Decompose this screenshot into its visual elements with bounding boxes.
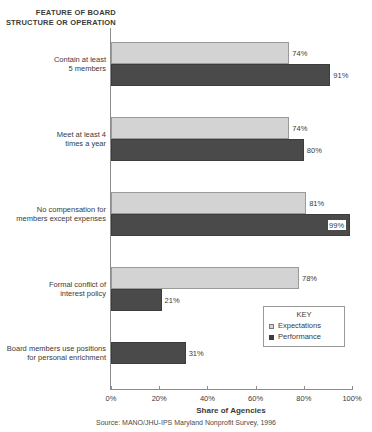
x-axis-tick-label: 20% <box>152 394 167 403</box>
title-line-2: STRUCTURE OR OPERATION <box>0 18 116 28</box>
chart-legend: KEY Expectations Performance <box>263 306 345 347</box>
x-axis-tick-label: 80% <box>296 394 311 403</box>
legend-item-performance: Performance <box>269 332 339 342</box>
x-axis-tick <box>352 386 353 390</box>
bar-value-label: 99% <box>328 220 346 230</box>
legend-swatch-expectations-icon <box>269 324 274 329</box>
bar-row-performance: 91% <box>111 64 352 86</box>
category-label: Contain at least5 members <box>0 55 106 74</box>
source-note: Source: MANO/JHU-IPS Maryland Nonprofit … <box>0 419 372 426</box>
legend-label-expectations: Expectations <box>278 321 321 331</box>
bar-value-label: 74% <box>292 49 307 58</box>
category-label-line: Meet at least 4 <box>0 130 106 140</box>
bar-performance[interactable]: 99% <box>111 214 350 236</box>
bar-performance[interactable]: 80% <box>111 139 304 161</box>
x-axis-tick-label: 40% <box>200 394 215 403</box>
x-axis-tick <box>304 386 305 390</box>
x-axis-line <box>110 389 352 390</box>
x-axis-tick <box>111 386 112 390</box>
page-title: FEATURE OF BOARD STRUCTURE OR OPERATION <box>0 8 116 28</box>
category-label: Board members use positionsfor personal … <box>0 344 106 363</box>
bar-value-label: 91% <box>333 71 348 80</box>
legend-title: KEY <box>269 310 339 319</box>
category-label-line: Board members use positions <box>0 344 106 354</box>
category-label: Formal conflict ofinterest policy <box>0 280 106 299</box>
bar-group: 78%21% <box>111 267 352 311</box>
category-label-line: for personal enrichment <box>0 353 106 363</box>
category-label-line: Contain at least <box>0 55 106 65</box>
bar-expectations[interactable]: 74% <box>111 117 289 139</box>
bar-group: 81%99% <box>111 192 352 236</box>
x-axis-tick-label: 0% <box>106 394 117 403</box>
bar-row-expectations: 81% <box>111 192 352 214</box>
bar-expectations[interactable]: 74% <box>111 42 289 64</box>
bar-value-label: 80% <box>307 146 322 155</box>
x-axis-title: Share of Agencies <box>110 406 352 415</box>
legend-swatch-performance-icon <box>269 335 274 340</box>
category-label-line: No compensation for <box>0 205 106 215</box>
category-label-line: 5 members <box>0 64 106 74</box>
bar-value-label: 78% <box>302 274 317 283</box>
bar-row-expectations: 78% <box>111 267 352 289</box>
bar-row-expectations: 74% <box>111 42 352 64</box>
x-axis-tick <box>207 386 208 390</box>
x-axis-tick <box>256 386 257 390</box>
bar-group: 74%91% <box>111 42 352 86</box>
bar-value-label: 74% <box>292 124 307 133</box>
bar-expectations[interactable]: 78% <box>111 267 299 289</box>
category-label-line: interest policy <box>0 289 106 299</box>
category-label-line: times a year <box>0 139 106 149</box>
x-axis-tick-label: 60% <box>248 394 263 403</box>
category-label-line: Formal conflict of <box>0 280 106 290</box>
bar-group: 74%80% <box>111 117 352 161</box>
legend-label-performance: Performance <box>278 332 321 342</box>
bar-value-label: 81% <box>309 199 324 208</box>
legend-item-expectations: Expectations <box>269 321 339 331</box>
bar-row-expectations: 74% <box>111 117 352 139</box>
bar-row-performance: 99% <box>111 214 352 236</box>
category-label-line: members except expenses <box>0 214 106 224</box>
x-axis-tick <box>159 386 160 390</box>
title-line-1: FEATURE OF BOARD <box>0 8 116 18</box>
bar-performance[interactable]: 91% <box>111 64 330 86</box>
bar-value-label: 31% <box>189 349 204 358</box>
bar-expectations[interactable]: 81% <box>111 192 306 214</box>
bar-performance[interactable]: 21% <box>111 289 162 311</box>
bar-row-performance: 80% <box>111 139 352 161</box>
bar-value-label: 21% <box>165 296 180 305</box>
category-label: No compensation formembers except expens… <box>0 205 106 224</box>
category-label: Meet at least 4times a year <box>0 130 106 149</box>
bar-performance[interactable]: 31% <box>111 342 186 364</box>
x-axis-tick-label: 100% <box>342 394 361 403</box>
